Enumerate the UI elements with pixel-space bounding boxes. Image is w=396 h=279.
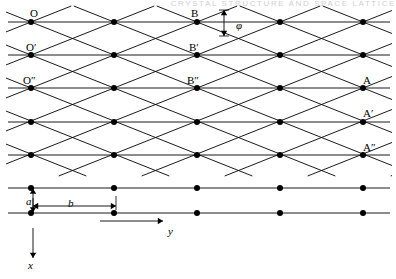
lattice-dot — [28, 119, 34, 125]
diagonal-line-up — [6, 6, 71, 32]
label-origin-double-prime: O″ — [23, 75, 36, 86]
lattice-dot — [360, 52, 366, 58]
label-axis-y: y — [168, 226, 173, 237]
lattice-dot — [277, 85, 283, 91]
lattice-dot — [277, 210, 283, 216]
label-angle: φ — [236, 20, 242, 31]
diagonal-line-down — [74, 6, 392, 133]
label-spacing-a: a — [26, 196, 32, 207]
diagonal-line-down — [6, 45, 335, 176]
lattice-dot — [360, 210, 366, 216]
diagonal-line-down — [6, 78, 252, 176]
lattice-dot — [277, 152, 283, 158]
lattice-dot — [360, 19, 366, 25]
label-spacing-b: b — [68, 198, 74, 209]
lattice-dot — [277, 185, 283, 191]
lattice-dot — [360, 185, 366, 191]
lattice-dot — [194, 19, 200, 25]
lattice-dot — [111, 152, 117, 158]
lattice-dot — [111, 119, 117, 125]
diagonal-line-down — [323, 6, 392, 34]
diagonal-line-down — [240, 6, 392, 67]
lattice-figure: CRYSTAL STRUCTURE AND SPACE LATTICE OO′O… — [0, 0, 396, 279]
label-origin-prime: O′ — [26, 42, 36, 53]
label-axis-x: x — [28, 260, 33, 271]
diagonal-line-down — [6, 144, 86, 176]
lattice-dot — [111, 210, 117, 216]
arrow-head — [158, 218, 163, 224]
label-b-double-prime: B″ — [187, 75, 199, 86]
label-a-prime: A′ — [363, 108, 373, 119]
lattice-dot — [111, 52, 117, 58]
label-b-point: B — [191, 8, 198, 19]
lattice-dot — [194, 210, 200, 216]
lattice-dot — [194, 185, 200, 191]
diagonal-lines — [6, 6, 392, 176]
lattice-dot — [277, 52, 283, 58]
lattice-dot — [111, 19, 117, 25]
lattice-dot — [111, 85, 117, 91]
diagonal-line-up — [142, 76, 392, 176]
label-origin: O — [30, 8, 38, 19]
label-b-prime: B′ — [189, 42, 199, 53]
diagonal-line-up — [391, 175, 392, 176]
annotation-arrows — [30, 10, 229, 258]
lattice-dot — [194, 119, 200, 125]
label-a-point: A — [363, 75, 371, 86]
diagonal-line-up — [6, 6, 320, 131]
row-lines — [8, 22, 390, 213]
lattice-dot — [277, 119, 283, 125]
diagonal-line-up — [6, 6, 237, 98]
lattice-dot — [194, 152, 200, 158]
lattice-dot — [277, 19, 283, 25]
diagonal-line-up — [59, 43, 392, 176]
arrow-head — [111, 203, 116, 209]
diagonal-line-up — [308, 142, 392, 176]
label-a-double-prime: A″ — [363, 142, 376, 153]
lattice-dot — [111, 185, 117, 191]
arrow-head — [30, 253, 36, 258]
lattice-dot — [28, 19, 34, 25]
lattice-dot — [360, 119, 366, 125]
lattice-dot — [28, 152, 34, 158]
